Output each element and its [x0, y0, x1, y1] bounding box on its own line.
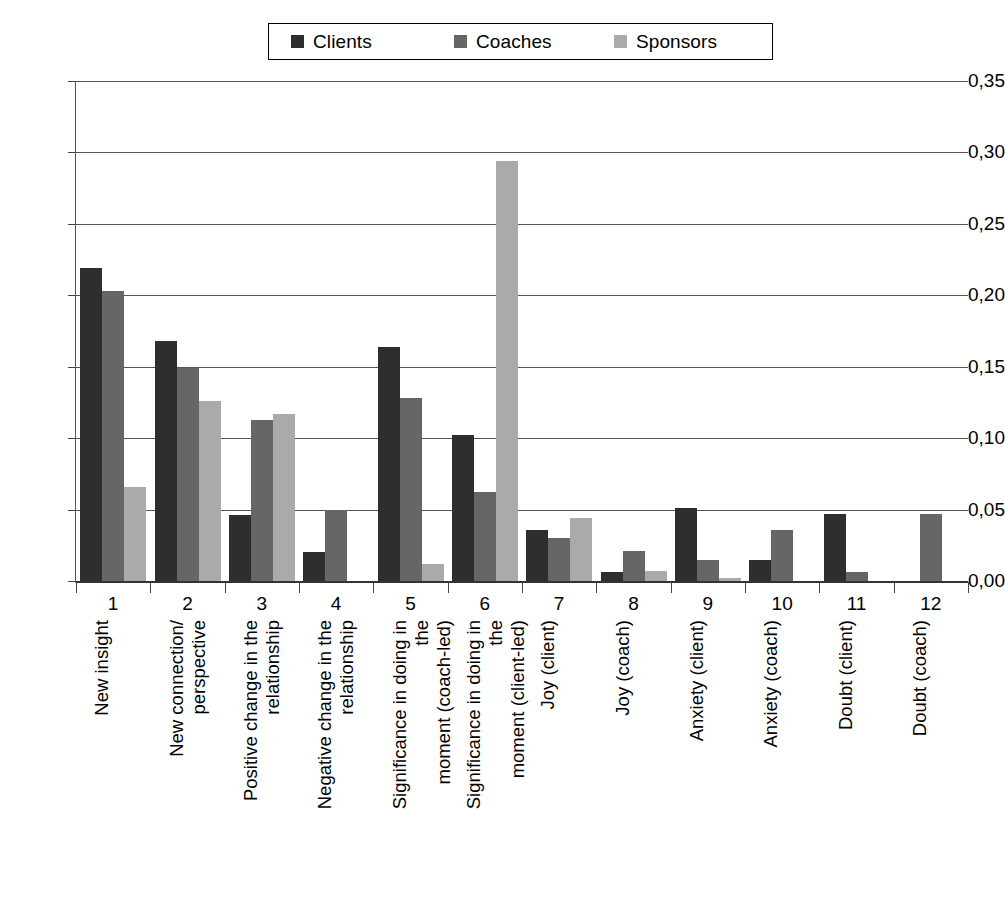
x-axis-tick-mark	[373, 582, 374, 593]
x-axis-category-2: New connection/ perspective	[166, 620, 236, 820]
x-axis-tick-mark	[596, 582, 597, 593]
x-axis-number-5: 5	[376, 594, 446, 614]
x-axis-tick-mark	[745, 582, 746, 593]
bar-group-2	[155, 81, 221, 581]
bar-sponsors-1	[124, 487, 146, 581]
bar-clients-6	[452, 435, 474, 581]
bar-clients-11	[824, 514, 846, 581]
x-axis-tick-mark	[671, 582, 672, 593]
bar-sponsors-2	[199, 401, 221, 581]
x-axis-tick-mark	[819, 582, 820, 593]
x-axis-number-1: 1	[78, 594, 148, 614]
bar-coaches-3	[251, 420, 273, 581]
bar-coaches-2	[177, 368, 199, 581]
x-axis-number-9: 9	[673, 594, 743, 614]
x-axis-tick-mark	[894, 582, 895, 593]
bar-coaches-4	[325, 510, 347, 581]
bar-group-5	[378, 81, 444, 581]
x-axis-category-9: Anxiety (client)	[686, 620, 756, 820]
x-axis-category-1: New insight	[91, 620, 161, 820]
bar-clients-10	[749, 560, 771, 581]
bar-group-1	[80, 81, 146, 581]
bar-group-8	[601, 81, 667, 581]
bar-clients-2	[155, 341, 177, 581]
x-axis-number-12: 12	[896, 594, 966, 614]
legend-swatch-coaches	[454, 35, 467, 48]
x-axis-number-2: 2	[153, 594, 223, 614]
x-axis-category-12: Doubt (coach)	[909, 620, 979, 820]
bar-clients-5	[378, 347, 400, 581]
x-axis-category-7: Joy (client)	[537, 620, 607, 820]
bar-clients-8	[601, 572, 623, 581]
bar-group-3	[229, 81, 295, 581]
legend-label-coaches: Coaches	[476, 31, 552, 53]
bar-coaches-6	[474, 492, 496, 581]
legend-entry-sponsors: Sponsors	[614, 31, 717, 53]
bar-coaches-5	[400, 398, 422, 581]
x-axis-tick-mark	[225, 582, 226, 593]
bar-coaches-10	[771, 530, 793, 581]
bar-group-7	[526, 81, 592, 581]
x-axis-category-8: Joy (coach)	[612, 620, 682, 820]
chart-legend: Clients Coaches Sponsors	[268, 23, 773, 60]
bar-group-10	[749, 81, 815, 581]
bar-coaches-9	[697, 560, 719, 581]
bar-sponsors-7	[570, 518, 592, 581]
x-axis-category-11: Doubt (client)	[835, 620, 905, 820]
bar-sponsors-8	[645, 571, 667, 581]
legend-swatch-clients	[291, 35, 304, 48]
x-axis-number-10: 10	[747, 594, 817, 614]
bar-group-9	[675, 81, 741, 581]
x-axis-number-6: 6	[450, 594, 520, 614]
bar-group-11	[824, 81, 890, 581]
bar-clients-1	[80, 268, 102, 581]
bar-sponsors-5	[422, 564, 444, 581]
legend-entry-clients: Clients	[291, 31, 372, 53]
x-axis-tick-mark	[448, 582, 449, 593]
x-axis-number-8: 8	[599, 594, 669, 614]
x-axis-category-10: Anxiety (coach)	[760, 620, 830, 820]
x-axis-tick-mark	[150, 582, 151, 593]
x-axis-number-7: 7	[524, 594, 594, 614]
bar-group-6	[452, 81, 518, 581]
bar-group-4	[303, 81, 369, 581]
bar-clients-7	[526, 530, 548, 581]
bar-coaches-11	[846, 572, 868, 581]
x-axis-tick-mark	[299, 582, 300, 593]
plot-area	[76, 81, 968, 581]
x-axis-tick-mark	[968, 582, 969, 593]
x-axis-tick-mark	[76, 582, 77, 593]
x-axis-tick-mark	[522, 582, 523, 593]
x-axis-number-3: 3	[227, 594, 297, 614]
bar-coaches-8	[623, 551, 645, 581]
x-axis-number-4: 4	[301, 594, 371, 614]
bar-chart: Clients Coaches Sponsors 0,350,300,250,2…	[0, 0, 1005, 907]
bar-clients-4	[303, 552, 325, 581]
bar-clients-3	[229, 515, 251, 581]
x-axis-category-4: Negative change in the relationship	[314, 620, 384, 820]
x-axis-number-11: 11	[822, 594, 892, 614]
x-axis-category-3: Positive change in the relationship	[240, 620, 310, 820]
bar-coaches-12	[920, 514, 942, 581]
bar-sponsors-6	[496, 161, 518, 581]
legend-swatch-sponsors	[614, 35, 627, 48]
legend-label-clients: Clients	[313, 31, 372, 53]
legend-label-sponsors: Sponsors	[636, 31, 717, 53]
bar-clients-9	[675, 508, 697, 581]
x-axis-category-6: Significance in doing in the moment (cli…	[463, 620, 533, 820]
legend-entry-coaches: Coaches	[454, 31, 552, 53]
x-axis-category-5: Significance in doing in the moment (coa…	[389, 620, 459, 820]
bar-group-12	[898, 81, 964, 581]
bar-coaches-1	[102, 291, 124, 581]
bar-coaches-7	[548, 538, 570, 581]
bar-sponsors-3	[273, 414, 295, 581]
